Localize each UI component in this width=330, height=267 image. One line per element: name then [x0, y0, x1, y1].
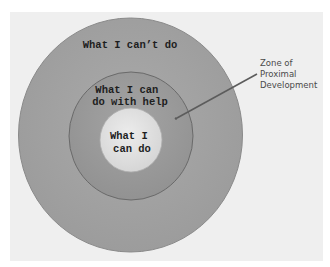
- middle-circle-label: What I can do with help: [92, 84, 168, 108]
- zpd-annotation: Zone of Proximal Development: [260, 58, 318, 90]
- inner-circle-label: What I can do: [110, 130, 154, 155]
- zpd-diagram: What I can’t do What I can do with help …: [0, 0, 330, 267]
- arrow-tip-icon: [175, 117, 178, 120]
- outer-circle-label: What I can’t do: [83, 39, 178, 51]
